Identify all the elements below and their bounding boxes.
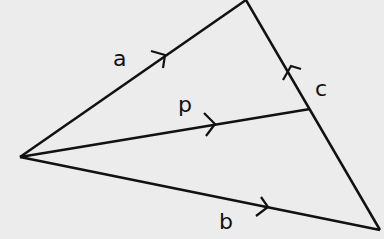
- vector-a-line: [20, 0, 246, 157]
- label-b: b: [219, 209, 233, 234]
- vector-p-line: [20, 109, 310, 157]
- label-a: a: [113, 46, 126, 71]
- label-c: c: [315, 76, 327, 101]
- vector-diagram: a p c b: [0, 0, 384, 239]
- vector-b-line: [20, 157, 380, 230]
- label-p: p: [178, 92, 192, 117]
